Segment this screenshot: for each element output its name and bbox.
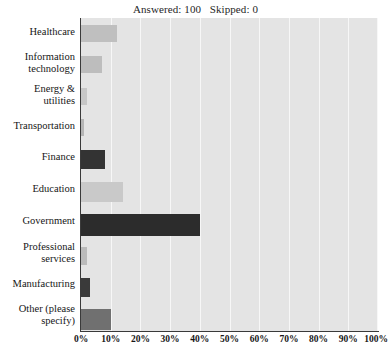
- category-label-professional-services: Professional services: [0, 241, 75, 264]
- category-label-energy-utilities: Energy & utilities: [0, 83, 75, 106]
- category-label-government: Government: [0, 215, 75, 227]
- x-tick-70: 70%: [279, 334, 298, 344]
- category-label-text: Education: [32, 183, 75, 194]
- y-axis-line: [80, 18, 81, 332]
- category-label-text: Healthcare: [30, 26, 75, 37]
- bar-information-technology: [81, 56, 102, 73]
- x-tick-90: 90%: [339, 334, 358, 344]
- x-tick-label: 0%: [74, 334, 88, 344]
- bar-other: [81, 309, 111, 330]
- category-label-text: specify): [0, 315, 75, 327]
- bar-healthcare: [81, 25, 117, 42]
- gridline-70: [289, 18, 290, 332]
- category-label-text: Manufacturing: [13, 278, 75, 289]
- x-tick-50: 50%: [220, 334, 239, 344]
- category-label-text: utilities: [0, 95, 75, 107]
- gridline-40: [200, 18, 201, 332]
- gridline-90: [348, 18, 349, 332]
- x-tick-label: 50%: [220, 334, 239, 344]
- x-tick-label: 40%: [190, 334, 209, 344]
- gridline-100: [377, 18, 378, 332]
- category-label-finance: Finance: [0, 151, 75, 163]
- bar-transportation: [81, 119, 84, 136]
- gridline-30: [170, 18, 171, 332]
- plot-area: [81, 18, 378, 332]
- category-label-other: Other (please specify): [0, 303, 75, 326]
- x-tick-100: 100%: [364, 334, 388, 344]
- bar-finance: [81, 150, 105, 169]
- x-tick-label: 60%: [250, 334, 269, 344]
- category-label-text: Government: [23, 215, 76, 226]
- x-tick-label: 90%: [339, 334, 358, 344]
- gridline-10: [111, 18, 112, 332]
- gridline-80: [319, 18, 320, 332]
- x-tick-10: 10%: [101, 334, 120, 344]
- bar-professional-services: [81, 247, 87, 265]
- category-label-text: Finance: [42, 151, 75, 162]
- x-tick-label: 30%: [161, 334, 180, 344]
- x-tick-0: 0%: [74, 334, 88, 344]
- gridline-20: [140, 18, 141, 332]
- x-tick-80: 80%: [309, 334, 328, 344]
- x-axis-line: [80, 331, 379, 332]
- x-tick-label: 10%: [101, 334, 120, 344]
- bar-education: [81, 182, 123, 202]
- gridline-60: [259, 18, 260, 332]
- category-label-text: technology: [0, 63, 75, 75]
- category-label-text: Professional: [0, 241, 75, 253]
- category-label-text: Information: [0, 51, 75, 63]
- x-tick-30: 30%: [161, 334, 180, 344]
- gridline-50: [230, 18, 231, 332]
- bar-chart: Answered: 100 Skipped: 0 Healthcare Info…: [0, 0, 391, 354]
- x-tick-60: 60%: [250, 334, 269, 344]
- x-tick-40: 40%: [190, 334, 209, 344]
- category-label-information-technology: Information technology: [0, 51, 75, 74]
- category-label-text: Transportation: [14, 120, 75, 131]
- category-label-manufacturing: Manufacturing: [0, 278, 75, 290]
- chart-title: Answered: 100 Skipped: 0: [0, 3, 391, 15]
- bar-manufacturing: [81, 278, 90, 297]
- x-tick-label: 80%: [309, 334, 328, 344]
- bar-energy-utilities: [81, 88, 87, 105]
- category-label-education: Education: [0, 183, 75, 195]
- category-label-healthcare: Healthcare: [0, 26, 75, 38]
- category-label-text: services: [0, 253, 75, 265]
- x-tick-label: 20%: [131, 334, 150, 344]
- category-label-transportation: Transportation: [0, 120, 75, 132]
- x-tick-label: 70%: [279, 334, 298, 344]
- category-label-text: Energy &: [0, 83, 75, 95]
- category-label-text: Other (please: [0, 303, 75, 315]
- bar-government: [81, 214, 200, 236]
- x-tick-label: 100%: [364, 334, 388, 344]
- x-tick-20: 20%: [131, 334, 150, 344]
